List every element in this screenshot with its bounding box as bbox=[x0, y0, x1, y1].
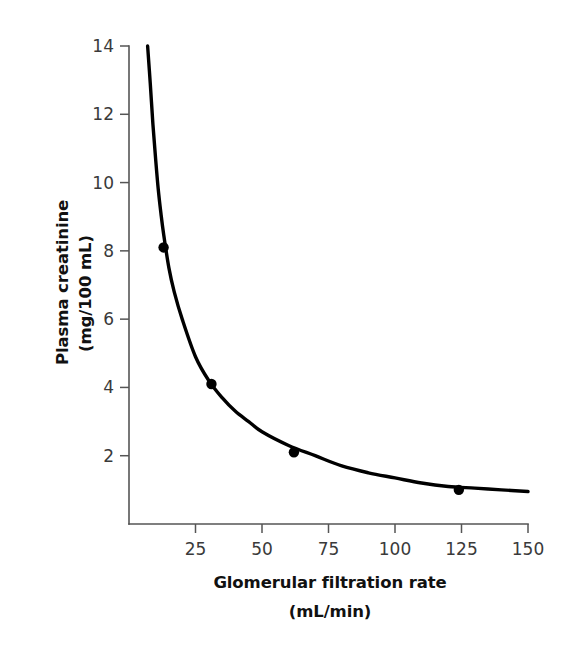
y-tick-label: 12 bbox=[92, 104, 114, 124]
figure-container: 2468101214 255075100125150 Plasma creati… bbox=[0, 0, 571, 650]
data-point-marker bbox=[454, 485, 464, 495]
y-tick-label: 2 bbox=[103, 446, 114, 466]
data-curve bbox=[148, 46, 528, 492]
x-tick-label: 125 bbox=[445, 539, 477, 559]
axes-group bbox=[129, 46, 528, 524]
y-tick-label: 8 bbox=[103, 241, 114, 261]
y-tick-label: 10 bbox=[92, 173, 114, 193]
x-tick-label: 150 bbox=[512, 539, 544, 559]
x-tick-label: 25 bbox=[185, 539, 207, 559]
y-tick-label: 4 bbox=[103, 377, 114, 397]
y-axis-ticks: 2468101214 bbox=[92, 36, 129, 466]
y-tick-label: 14 bbox=[92, 36, 114, 56]
y-axis-units: (mg/100 mL) bbox=[76, 235, 95, 352]
chart-plot: 2468101214 255075100125150 Plasma creati… bbox=[0, 0, 571, 650]
data-point-marker bbox=[206, 379, 216, 389]
x-tick-label: 100 bbox=[379, 539, 411, 559]
x-axis-ticks: 255075100125150 bbox=[185, 524, 545, 559]
y-tick-label: 6 bbox=[103, 309, 114, 329]
x-axis-title: Glomerular filtration rate bbox=[213, 573, 446, 592]
data-point-marker bbox=[158, 242, 168, 252]
x-tick-label: 75 bbox=[318, 539, 340, 559]
x-tick-label: 50 bbox=[251, 539, 273, 559]
data-markers bbox=[158, 242, 464, 495]
y-axis-title: Plasma creatinine bbox=[53, 200, 72, 365]
x-axis-units: (mL/min) bbox=[289, 602, 372, 621]
data-point-marker bbox=[289, 447, 299, 457]
